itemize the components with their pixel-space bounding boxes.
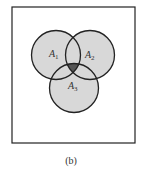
venn-diagram: A1 A2 A3 <box>0 0 142 169</box>
figure-caption: (b) <box>0 155 142 166</box>
